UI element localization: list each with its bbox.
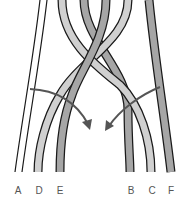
label-e: E — [57, 185, 64, 196]
label-a: A — [15, 185, 22, 196]
strand-diagram — [0, 0, 192, 210]
label-c: C — [148, 185, 155, 196]
label-f: F — [168, 185, 174, 196]
label-b: B — [128, 185, 135, 196]
label-d: D — [35, 185, 42, 196]
